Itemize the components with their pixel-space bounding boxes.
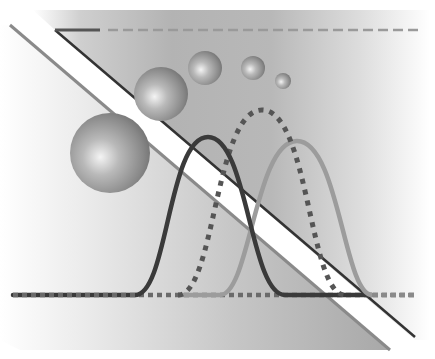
sphere-smaller: [241, 56, 265, 80]
sphere-large: [70, 113, 150, 193]
illustration-canvas: [0, 0, 435, 359]
sphere-smallest: [275, 73, 291, 89]
abstract-diagram: [0, 0, 435, 359]
sphere-medium: [134, 67, 188, 121]
sphere-small: [188, 51, 222, 85]
